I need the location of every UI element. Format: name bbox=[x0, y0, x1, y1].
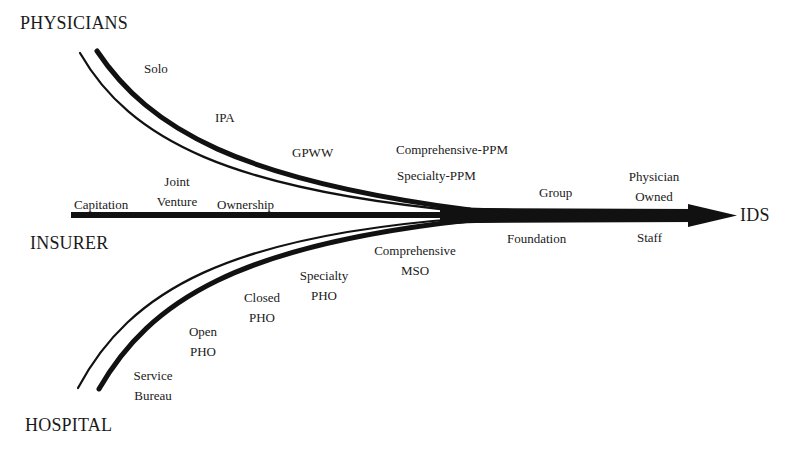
stage-joint-venture-line2: Venture bbox=[152, 192, 202, 212]
stage-specialty-pho: Specialty PHO bbox=[294, 266, 354, 306]
stage-foundation: Foundation bbox=[507, 229, 566, 249]
stage-closed-pho-line1: Closed bbox=[239, 288, 285, 308]
stage-closed-pho: Closed PHO bbox=[239, 288, 285, 328]
stage-specialty-pho-line1: Specialty bbox=[294, 266, 354, 286]
source-insurer-label: INSURER bbox=[30, 232, 108, 254]
stage-open-pho-line2: PHO bbox=[183, 342, 223, 362]
stage-ownership: Ownership bbox=[217, 195, 274, 215]
physician-thin-curve bbox=[80, 53, 470, 212]
stage-comprehensive-ppm: Comprehensive-PPM bbox=[396, 140, 508, 160]
stage-open-pho: Open PHO bbox=[183, 322, 223, 362]
stage-comprehensive-mso: Comprehensive MSO bbox=[370, 241, 460, 281]
stage-service-bureau: Service Bureau bbox=[128, 366, 178, 406]
stage-joint-venture-line1: Joint bbox=[152, 172, 202, 192]
stage-closed-pho-line2: PHO bbox=[239, 308, 285, 328]
stage-staff: Staff bbox=[637, 228, 662, 248]
stage-physician-owned-line1: Physician bbox=[620, 167, 688, 187]
source-hospital-label: HOSPITAL bbox=[25, 414, 112, 436]
target-ids-label: IDS bbox=[740, 204, 770, 226]
source-physicians-label: PHYSICIANS bbox=[20, 12, 128, 34]
stage-specialty-ppm: Specialty-PPM bbox=[397, 166, 476, 186]
stage-capitation: Capitation bbox=[74, 195, 128, 215]
stage-gpww: GPWW bbox=[292, 143, 333, 163]
main-arrow-shaft bbox=[470, 208, 695, 223]
stage-physician-owned: Physician Owned bbox=[620, 167, 688, 207]
stage-joint-venture: Joint Venture bbox=[152, 172, 202, 212]
stage-physician-owned-line2: Owned bbox=[620, 187, 688, 207]
stage-service-bureau-line2: Bureau bbox=[128, 386, 178, 406]
stage-comprehensive-mso-line2: MSO bbox=[370, 261, 460, 281]
stage-comprehensive-mso-line1: Comprehensive bbox=[370, 241, 460, 261]
stage-ipa: IPA bbox=[215, 108, 235, 128]
stage-open-pho-line1: Open bbox=[183, 322, 223, 342]
diagram-canvas bbox=[0, 0, 809, 451]
stage-solo: Solo bbox=[144, 59, 168, 79]
stage-group: Group bbox=[539, 183, 572, 203]
stage-service-bureau-line1: Service bbox=[128, 366, 178, 386]
stage-specialty-pho-line2: PHO bbox=[294, 286, 354, 306]
arrow-head-icon bbox=[688, 204, 737, 227]
